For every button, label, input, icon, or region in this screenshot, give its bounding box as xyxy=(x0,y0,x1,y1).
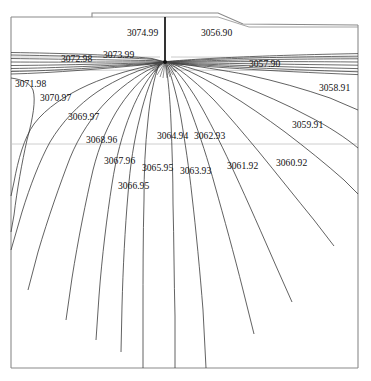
contour-label: 3058.91 xyxy=(319,82,350,93)
well-screen-point-icon[interactable] xyxy=(163,60,167,64)
contour-leg-3062 xyxy=(168,64,254,334)
embankment-underside xyxy=(92,17,358,27)
contour-label: 3062.93 xyxy=(194,130,225,141)
pumping-well-group[interactable] xyxy=(163,17,167,64)
contour-label: 3064.94 xyxy=(157,130,188,141)
contour-label: 3066.95 xyxy=(118,180,149,191)
contour-leg-3063 xyxy=(167,64,206,368)
contour-label: 3061.92 xyxy=(227,160,258,171)
contour-label: 3070.97 xyxy=(40,92,71,103)
contour-label: 3068.96 xyxy=(86,134,117,145)
contour-figure: 3074.99 3056.90 3072.98 3073.99 3057.90 … xyxy=(0,0,371,381)
contour-label: 3073.99 xyxy=(103,49,134,60)
contour-label: 3072.98 xyxy=(61,53,92,64)
contour-label: 3071.98 xyxy=(15,78,46,89)
contour-plot-canvas: 3074.99 3056.90 3072.98 3073.99 3057.90 … xyxy=(0,0,371,381)
contour-label: 3069.97 xyxy=(68,111,99,122)
contour-label-group: 3074.99 3056.90 3072.98 3073.99 3057.90 … xyxy=(15,27,350,191)
contour-leg-3064 xyxy=(166,65,175,368)
contour-label: 3063.93 xyxy=(180,165,211,176)
contour-label: 3057.90 xyxy=(249,58,280,69)
contour-label: 3059.91 xyxy=(292,119,323,130)
contour-leg-3066 xyxy=(121,64,160,352)
contour-leg-3065 xyxy=(143,65,159,368)
contour-label: 3060.92 xyxy=(276,157,307,168)
contour-label: 3067.96 xyxy=(104,155,135,166)
contour-leg-3067 xyxy=(96,64,161,340)
contour-label: 3065.95 xyxy=(142,162,173,173)
contour-label: 3074.99 xyxy=(127,27,158,38)
contour-label: 3056.90 xyxy=(201,27,232,38)
contour-leg-3068 xyxy=(66,64,162,320)
boundary-top-surface xyxy=(11,13,358,25)
contour-lines-radial xyxy=(11,63,358,368)
